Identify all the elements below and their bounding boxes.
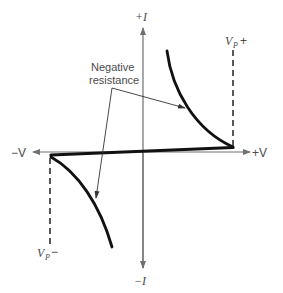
minus-i-label: −I xyxy=(134,274,147,288)
leader-arrow-upper-icon xyxy=(112,88,185,108)
vp-plus-sign: + xyxy=(240,34,247,48)
plus-v-label: +V xyxy=(252,146,267,160)
lower-negative-resistance-curve xyxy=(51,157,112,247)
vp-minus-sign: − xyxy=(51,245,58,259)
negative-resistance-label-line1: Negative xyxy=(91,61,134,73)
vp-minus-subscript: P xyxy=(44,253,50,262)
minus-v-label: −V xyxy=(11,146,26,160)
linear-region-line xyxy=(51,148,233,156)
vp-plus-label: V P + xyxy=(225,34,247,50)
upper-negative-resistance-curve xyxy=(167,51,233,147)
plus-i-label: +I xyxy=(135,10,148,24)
characteristic-curve xyxy=(51,51,233,247)
iv-characteristic-diagram: +I −I +V −V Negative resistance V P + V … xyxy=(0,0,283,293)
annotation-leaders xyxy=(96,88,185,198)
vp-plus-subscript: P xyxy=(232,41,238,50)
negative-resistance-label-line2: resistance xyxy=(89,74,139,86)
leader-arrow-lower-icon xyxy=(96,88,112,198)
vp-minus-label: V P − xyxy=(37,245,58,262)
